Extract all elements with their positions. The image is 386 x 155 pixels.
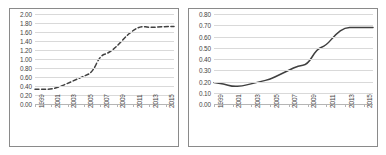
chart-left-y-axis-labels: 2.001.801.601.401.201.000.800.600.400.20… [10,9,32,146]
y-tick-label: 0.40 [199,56,211,63]
x-tick-label: 2007 [103,94,110,108]
gridline [35,32,174,33]
x-tick-mark [251,104,252,107]
y-tick-label: 0.60 [199,33,211,40]
y-tick-label: 1.00 [20,56,32,63]
gridline [214,48,373,49]
gridline [35,86,174,87]
x-tick-label: 2001 [235,94,242,108]
x-tick-label: 1999 [217,94,224,108]
x-tick-label: 1999 [38,94,45,108]
x-tick-mark [364,104,365,107]
chart-panel-right: 0.800.700.600.500.400.300.200.100.00 199… [188,8,378,147]
y-tick-label: 2.00 [20,11,32,18]
x-tick-label: 2005 [87,94,94,108]
gridline [35,77,174,78]
y-tick-label: 0.80 [20,65,32,72]
x-tick-label: 2003 [254,94,261,108]
x-tick-mark [35,104,36,107]
y-tick-label: 0.60 [20,74,32,81]
gridline [35,68,174,69]
y-tick-label: 0.30 [199,67,211,74]
x-tick-mark [133,104,134,107]
y-tick-label: 0.20 [199,78,211,85]
gridline [214,25,373,26]
y-tick-label: 0.00 [20,101,32,108]
gridline [214,70,373,71]
x-tick-mark [289,104,290,107]
gridline [214,14,373,15]
x-tick-mark [326,104,327,107]
x-tick-mark [117,104,118,107]
x-tick-mark [68,104,69,107]
x-tick-mark [233,104,234,107]
chart-right-inner: 0.800.700.600.500.400.300.200.100.00 199… [189,9,377,146]
gridline [214,37,373,38]
x-tick-mark [51,104,52,107]
y-tick-label: 0.50 [199,44,211,51]
chart-right-series-path [214,9,373,106]
x-tick-label: 2003 [70,94,77,108]
x-tick-mark [214,104,215,107]
gridline [214,59,373,60]
y-tick-label: 0.70 [199,22,211,29]
x-tick-label: 2001 [54,94,61,108]
x-tick-label: 2009 [310,94,317,108]
x-tick-label: 2015 [366,94,373,108]
x-tick-mark [84,104,85,107]
gridline [214,82,373,83]
gridline [35,41,174,42]
x-tick-label: 2009 [119,94,126,108]
x-tick-label: 2011 [329,95,336,108]
x-tick-label: 2015 [168,94,175,108]
chart-left-inner: 2.001.801.601.401.201.000.800.600.400.20… [10,9,178,146]
x-tick-mark [100,104,101,107]
chart-right-plot-area [214,9,373,106]
gridline [35,14,174,15]
x-tick-mark [308,104,309,107]
chart-panel-left: 2.001.801.601.401.201.000.800.600.400.20… [9,8,179,147]
gridline [35,59,174,60]
x-tick-label: 2013 [152,94,159,108]
x-tick-label: 2005 [273,94,280,108]
y-tick-label: 0.40 [20,83,32,90]
x-tick-mark [149,104,150,107]
gridline [35,50,174,51]
y-tick-label: 1.20 [20,47,32,54]
y-tick-label: 0.10 [199,89,211,96]
x-tick-label: 2007 [291,94,298,108]
x-tick-mark [345,104,346,107]
y-tick-label: 1.40 [20,38,32,45]
y-tick-label: 1.60 [20,29,32,36]
chart-left-plot-area [35,9,174,106]
y-tick-label: 0.20 [20,92,32,99]
x-tick-mark [166,104,167,107]
chart-right-y-axis-labels: 0.800.700.600.500.400.300.200.100.00 [189,9,211,146]
y-tick-label: 0.00 [199,101,211,108]
y-tick-label: 0.80 [199,11,211,18]
figure-canvas: 2.001.801.601.401.201.000.800.600.400.20… [0,0,386,155]
gridline [35,23,174,24]
x-tick-label: 2013 [348,94,355,108]
x-tick-mark [270,104,271,107]
x-tick-label: 2011 [136,95,143,108]
y-tick-label: 1.80 [20,20,32,27]
